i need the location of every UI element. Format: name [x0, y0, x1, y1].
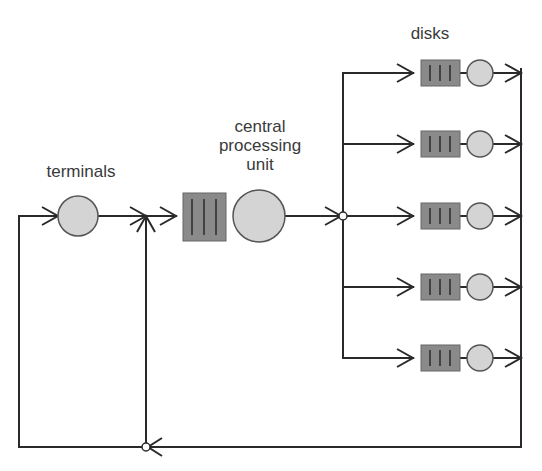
cpu-server-icon — [233, 190, 285, 242]
feedback-path-terminals — [19, 216, 58, 447]
disk-server-icon — [467, 60, 493, 86]
disk-node-1 — [421, 60, 493, 86]
disk-server-icon — [467, 131, 493, 157]
disk-node-3 — [421, 203, 493, 229]
cpu-node — [183, 190, 285, 242]
disk-node-5 — [421, 345, 493, 371]
split-junction-icon — [339, 212, 347, 220]
merge-junction-icon — [142, 443, 150, 451]
cpu-label-line2: processing — [200, 136, 320, 155]
queueing-network-diagram — [0, 0, 542, 471]
disk-server-icon — [467, 274, 493, 300]
terminals-server-icon — [58, 196, 98, 236]
cpu-label-line3: unit — [200, 155, 320, 174]
cpu-label-line1: central — [200, 117, 320, 136]
disk-server-icon — [467, 345, 493, 371]
disk-node-2 — [421, 131, 493, 157]
disk-server-icon — [467, 203, 493, 229]
terminals-label: terminals — [36, 162, 126, 181]
disk-node-4 — [421, 274, 493, 300]
disks-label: disks — [400, 24, 460, 43]
disk-nodes — [421, 60, 493, 371]
